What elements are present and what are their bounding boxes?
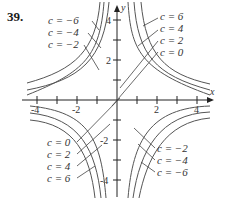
- y-tick-2: 2: [106, 55, 111, 66]
- x-tick-neg2: -2: [72, 104, 80, 115]
- label-c-2-ur: c = 2: [160, 34, 184, 46]
- label-c-6-ll: c = 6: [47, 172, 71, 184]
- label-c-neg2-ul: c = −2: [48, 38, 79, 50]
- y-axis-arrow-icon: [114, 5, 120, 12]
- curve-labels: c = −6 c = −4 c = −2 c = 6 c = 4 c = 2 c…: [47, 10, 188, 184]
- label-c-4-ur: c = 4: [160, 22, 184, 34]
- label-c-4-ll: c = 4: [47, 160, 71, 172]
- label-c-6-ur: c = 6: [160, 10, 184, 22]
- x-tick-2: 2: [154, 104, 159, 115]
- label-c-0-ll: c = 0: [47, 136, 71, 148]
- label-c-neg4-lr: c = −4: [157, 154, 188, 166]
- label-c-neg4-ul: c = −4: [48, 26, 79, 38]
- label-c-neg2-lr: c = −2: [157, 142, 188, 154]
- label-c-0-ur: c = 0: [160, 46, 184, 58]
- y-tick-neg2: -2: [100, 135, 108, 146]
- label-c-neg6-ul: c = −6: [48, 14, 79, 26]
- label-c-2-ll: c = 2: [47, 148, 71, 160]
- label-c-neg6-lr: c = −6: [157, 166, 188, 178]
- x-axis-arrow-icon: [207, 97, 214, 103]
- y-axis-label: y: [120, 2, 126, 13]
- x-axis-label: x: [209, 86, 215, 97]
- level-curves-plot: x y -4 -2 2 4 4 2 -2 -4: [0, 0, 227, 201]
